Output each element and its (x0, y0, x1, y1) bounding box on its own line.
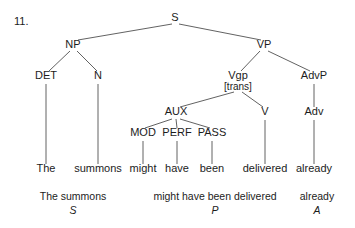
node-advp: AdvP (301, 69, 327, 81)
terminal-word: summons (74, 162, 122, 174)
analysis-function: S (69, 204, 76, 216)
branch-np-n (77, 51, 97, 71)
node-pass: PASS (198, 126, 227, 138)
terminal-word: delivered (243, 162, 288, 174)
terminal-word: been (200, 162, 224, 174)
node-np: NP (65, 38, 80, 50)
analysis-words: might have been delivered (153, 190, 276, 202)
branch-vgp-aux (180, 92, 234, 107)
branch-vp-vgp (241, 51, 260, 71)
node-n: N (94, 69, 102, 81)
node-aux: AUX (165, 105, 188, 117)
analysis-words: The summons (40, 190, 107, 202)
node-adv: Adv (305, 105, 324, 117)
tree-svg-canvas: 11. S NP VP DET N Vgp [trans] AdvP AUX V… (0, 0, 355, 228)
node-perf: PERF (162, 126, 192, 138)
branch-vgp-v (242, 92, 263, 107)
node-det: DET (35, 69, 57, 81)
clause-analysis-row: The summons S might have been delivered … (40, 190, 335, 216)
terminal-word: already (296, 162, 333, 174)
tree-branches (46, 24, 314, 164)
terminal-word: might (130, 162, 157, 174)
branch-s-np (78, 24, 172, 40)
analysis-words: already (300, 190, 335, 202)
node-mod: MOD (130, 126, 156, 138)
branch-np-det (49, 51, 70, 71)
node-s: S (171, 11, 178, 23)
terminal-word: have (165, 162, 189, 174)
node-vgp-feature: [trans] (224, 81, 252, 92)
terminal-words: The summons might have been delivered al… (37, 162, 333, 174)
branch-vp-advp (268, 51, 310, 71)
node-v: V (261, 105, 269, 117)
syntax-tree-diagram: 11. S NP VP DET N Vgp [trans] AdvP AUX V… (0, 0, 355, 228)
analysis-function: A (312, 204, 320, 216)
analysis-function: P (211, 204, 218, 216)
branch-s-vp (179, 24, 261, 40)
terminal-word: The (37, 162, 56, 174)
node-vgp: Vgp (228, 69, 248, 81)
item-number: 11. (14, 15, 28, 27)
node-vp: VP (257, 38, 272, 50)
